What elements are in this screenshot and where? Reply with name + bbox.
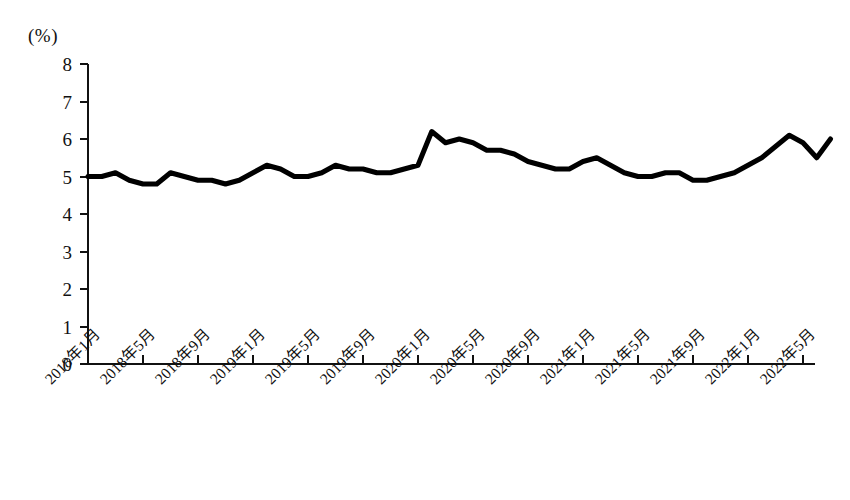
y-axis-ticks (80, 64, 88, 364)
axis-frame (88, 64, 815, 364)
plot-area (0, 0, 850, 500)
line-chart: (%) 876543210 2018年1月2018年5月2018年9月2019年… (0, 0, 850, 500)
series-line-unemployment-rate (88, 132, 831, 185)
